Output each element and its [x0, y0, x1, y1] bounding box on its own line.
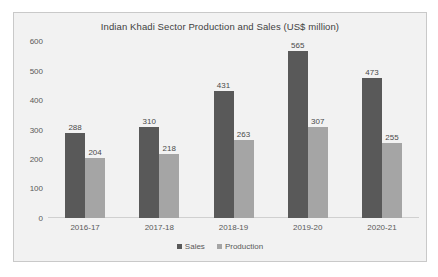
- bar-wrap-sales: 310: [139, 41, 159, 218]
- bar-production-2016-17[interactable]: 204: [85, 158, 105, 218]
- legend-item-production[interactable]: Production: [217, 242, 263, 251]
- plot-area: 600 500 400 300 200 100 0 288 204: [48, 41, 419, 218]
- y-tick-400: 400: [30, 95, 43, 104]
- y-tick-0: 0: [39, 214, 43, 223]
- bar-sales-2017-18[interactable]: 310: [139, 127, 159, 218]
- bar-value-label: 255: [385, 133, 398, 142]
- bar-production-2018-19[interactable]: 263: [234, 140, 254, 218]
- bar-groups: 288 204 2016-17 310 2: [48, 41, 419, 218]
- legend-swatch-icon: [217, 244, 222, 249]
- bar-sales-2019-20[interactable]: 565: [288, 51, 308, 218]
- y-tick-300: 300: [30, 125, 43, 134]
- bar-value-label: 263: [237, 130, 250, 139]
- category-label-2018-19: 2018-19: [196, 223, 270, 232]
- bar-value-label: 565: [291, 41, 304, 50]
- bar-production-2017-18[interactable]: 218: [159, 154, 179, 218]
- category-label-2016-17: 2016-17: [48, 223, 122, 232]
- bar-group-2019-20: 565 307 2019-20: [271, 41, 345, 218]
- bar-group-2017-18: 310 218 2017-18: [122, 41, 196, 218]
- bar-wrap-production: 218: [159, 41, 179, 218]
- bar-sales-2020-21[interactable]: 473: [362, 78, 382, 218]
- bar-production-2019-20[interactable]: 307: [308, 127, 328, 218]
- chart-title: Indian Khadi Sector Production and Sales…: [14, 21, 426, 32]
- legend-label-production: Production: [225, 242, 263, 251]
- bar-wrap-production: 263: [234, 41, 254, 218]
- bar-group-2018-19: 431 263 2018-19: [196, 41, 270, 218]
- y-tick-100: 100: [30, 184, 43, 193]
- chart-container: Indian Khadi Sector Production and Sales…: [13, 12, 427, 262]
- category-label-2020-21: 2020-21: [345, 223, 419, 232]
- bar-wrap-sales: 288: [65, 41, 85, 218]
- y-tick-200: 200: [30, 155, 43, 164]
- legend-label-sales: Sales: [185, 242, 205, 251]
- bar-value-label: 310: [143, 117, 156, 126]
- bar-value-label: 218: [163, 144, 176, 153]
- bar-value-label: 288: [68, 123, 81, 132]
- legend-item-sales[interactable]: Sales: [177, 242, 205, 251]
- category-label-2019-20: 2019-20: [271, 223, 345, 232]
- bar-group-2020-21: 473 255 2020-21: [345, 41, 419, 218]
- bar-wrap-sales: 473: [362, 41, 382, 218]
- bar-wrap-production: 307: [308, 41, 328, 218]
- bar-value-label: 473: [365, 68, 378, 77]
- bar-value-label: 431: [217, 81, 230, 90]
- bar-wrap-sales: 431: [214, 41, 234, 218]
- bar-wrap-production: 204: [85, 41, 105, 218]
- bar-sales-2018-19[interactable]: 431: [214, 91, 234, 218]
- bar-value-label: 307: [311, 117, 324, 126]
- bar-sales-2016-17[interactable]: 288: [65, 133, 85, 218]
- bar-wrap-sales: 565: [288, 41, 308, 218]
- bar-group-2016-17: 288 204 2016-17: [48, 41, 122, 218]
- bar-value-label: 204: [88, 148, 101, 157]
- bar-production-2020-21[interactable]: 255: [382, 143, 402, 218]
- bar-wrap-production: 255: [382, 41, 402, 218]
- chart-legend: Sales Production: [14, 242, 426, 251]
- legend-swatch-icon: [177, 244, 182, 249]
- category-label-2017-18: 2017-18: [122, 223, 196, 232]
- y-tick-500: 500: [30, 66, 43, 75]
- y-tick-600: 600: [30, 37, 43, 46]
